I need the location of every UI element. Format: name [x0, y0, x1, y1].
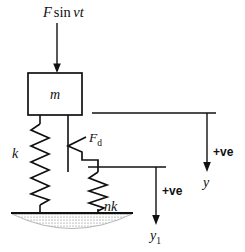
- arrow-y1: [152, 167, 160, 225]
- damper-force-label: Fd: [88, 130, 102, 148]
- plus-ve-right-label: +ve: [213, 145, 234, 159]
- force-label-F: F: [42, 4, 52, 20]
- force-label: Fsinνt: [42, 4, 85, 20]
- ground: [11, 213, 133, 229]
- plus-ve-mid-label: +ve: [162, 184, 183, 198]
- arrow-y: [203, 113, 211, 172]
- left-spring: [31, 124, 49, 213]
- figure-root: Fsinνt m k Fd n: [0, 0, 245, 252]
- spring-nk-label: nk: [104, 199, 118, 214]
- y1-sub: 1: [156, 236, 161, 246]
- force-label-nut: νt: [73, 4, 84, 20]
- vibration-diagram: Fsinνt m k Fd n: [0, 0, 245, 252]
- force-label-sin: sin: [54, 4, 72, 20]
- damper-force-sub: d: [97, 138, 102, 148]
- force-arrow: [53, 23, 61, 73]
- y-label: y: [201, 175, 210, 190]
- mass-label: m: [50, 87, 60, 102]
- spring-k-label: k: [12, 146, 19, 161]
- y1-label: y1: [148, 228, 161, 246]
